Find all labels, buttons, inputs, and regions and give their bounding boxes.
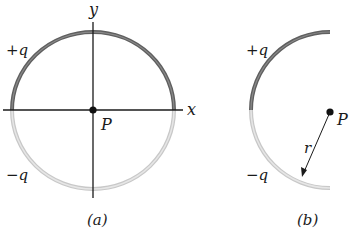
panel-b: r P +q −q (b): [246, 32, 348, 229]
point-p-dot: [89, 106, 96, 113]
caption-a: (a): [87, 211, 108, 229]
y-axis-label: y: [88, 0, 99, 19]
figure-svg: x y +q −q P (a) r P +q −q (b): [0, 0, 359, 239]
point-p-label-b: P: [336, 110, 348, 129]
point-p-label: P: [100, 115, 112, 134]
panel-a: x y +q −q P (a): [3, 0, 196, 229]
x-axis-label: x: [187, 100, 196, 119]
arrowhead-icon: [301, 167, 307, 177]
positive-charge-label: +q: [6, 41, 28, 59]
negative-charge-label-b: −q: [246, 166, 268, 184]
figure-canvas: x y +q −q P (a) r P +q −q (b): [0, 0, 359, 239]
positive-charge-label-b: +q: [246, 41, 268, 59]
negative-charge-label: −q: [6, 166, 28, 184]
radius-label: r: [304, 139, 312, 157]
caption-b: (b): [297, 211, 318, 229]
